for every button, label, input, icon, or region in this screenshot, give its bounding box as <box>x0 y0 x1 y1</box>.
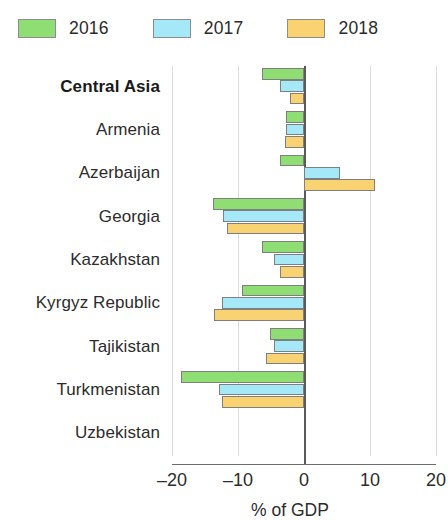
plot-area <box>172 66 436 456</box>
bar-2017 <box>222 297 305 309</box>
category-label: Armenia <box>96 120 160 140</box>
x-tick-label--20: –20 <box>157 470 187 491</box>
bar-group <box>172 283 436 326</box>
bar-2016 <box>213 198 304 210</box>
bar-2018 <box>285 136 304 148</box>
bar-2017 <box>223 210 304 222</box>
bar-2018 <box>304 179 375 191</box>
bar-2016 <box>270 328 304 340</box>
bar-2018 <box>214 309 304 321</box>
bar-2017 <box>219 384 304 396</box>
bar-2016 <box>286 111 304 123</box>
x-axis-line <box>172 464 436 465</box>
category-label: Central Asia <box>60 77 160 97</box>
category-label: Uzbekistan <box>75 423 160 443</box>
bar-group <box>172 326 436 369</box>
bar-2018 <box>227 223 304 235</box>
bar-group <box>172 109 436 152</box>
bar-2018 <box>290 93 304 105</box>
legend-item-2018: 2018 <box>287 18 378 39</box>
legend-swatch-2017 <box>153 19 191 38</box>
legend-swatch-2018 <box>287 19 325 38</box>
bar-group <box>172 153 436 196</box>
legend-item-2017: 2017 <box>153 18 244 39</box>
bar-group <box>172 66 436 109</box>
bar-2016 <box>242 285 304 297</box>
category-label: Turkmenistan <box>56 380 160 400</box>
bar-2016 <box>181 371 304 383</box>
legend-label-2016: 2016 <box>69 18 109 39</box>
category-label: Azerbaijan <box>79 163 160 183</box>
bar-chart: % of GDP Central AsiaArmeniaAzerbaijanGe… <box>0 56 448 515</box>
legend-swatch-2016 <box>18 19 56 38</box>
bar-group <box>172 369 436 412</box>
bar-2018 <box>222 396 304 408</box>
gridline-20 <box>436 66 437 456</box>
bar-2017 <box>286 124 304 136</box>
bar-2018 <box>280 266 304 278</box>
bar-group <box>172 239 436 282</box>
x-tick-label-10: 10 <box>360 470 380 491</box>
bar-group <box>172 196 436 239</box>
bar-2018 <box>266 353 304 365</box>
bar-group <box>172 413 436 456</box>
category-label: Tajikistan <box>89 337 160 357</box>
x-tick-label-20: 20 <box>426 470 446 491</box>
bar-2017 <box>280 80 304 92</box>
category-label: Kyrgyz Republic <box>36 293 160 313</box>
legend-label-2017: 2017 <box>204 18 244 39</box>
bar-2016 <box>262 68 304 80</box>
category-label: Kazakhstan <box>70 250 160 270</box>
x-tick-label--10: –10 <box>223 470 253 491</box>
bar-2016 <box>262 241 304 253</box>
bar-2017 <box>304 167 340 179</box>
x-axis-title: % of GDP <box>0 500 448 520</box>
chart-legend: 2016 2017 2018 <box>0 0 448 56</box>
bar-2017 <box>274 254 304 266</box>
legend-label-2018: 2018 <box>338 18 378 39</box>
legend-item-2016: 2016 <box>18 18 109 39</box>
x-tick-label-0: 0 <box>299 470 309 491</box>
category-label: Georgia <box>99 207 160 227</box>
bar-2016 <box>280 155 304 167</box>
x-axis-title-text: % of GDP <box>251 500 329 520</box>
bar-2017 <box>274 340 304 352</box>
